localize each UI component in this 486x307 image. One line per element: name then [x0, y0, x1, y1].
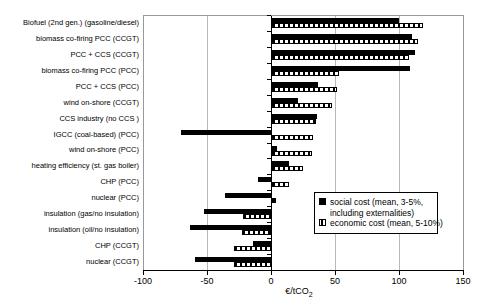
x-axis-line — [143, 270, 464, 271]
plot-border-left — [143, 15, 144, 271]
plot-border-top — [143, 15, 464, 16]
category-label: nuclear (PCC) — [0, 193, 139, 203]
category-axis-tick — [267, 222, 271, 223]
bar-economic-cost — [272, 166, 303, 171]
category-axis-tick — [267, 158, 271, 159]
category-axis-tick — [267, 174, 271, 175]
category-axis-tick — [267, 206, 271, 207]
category-label: biomass co-firing PCC (PCC) — [0, 66, 139, 76]
category-axis-tick — [267, 79, 271, 80]
bar-social-cost — [181, 130, 271, 135]
bar-chart: €/tCO2 -100-50050100150Biofuel (2nd gen.… — [0, 0, 486, 307]
bar-economic-cost — [272, 151, 312, 156]
x-tick-label: 0 — [254, 276, 288, 286]
bar-economic-cost — [272, 103, 332, 108]
category-axis-tick — [267, 127, 271, 128]
x-axis-tick — [271, 271, 272, 275]
category-label: insulation (oil/no insulation) — [0, 225, 139, 235]
category-label: biomass co-firing PCC (CCGT) — [0, 34, 139, 44]
category-axis-tick — [267, 143, 271, 144]
category-axis-tick — [267, 31, 271, 32]
bar-economic-cost — [234, 246, 271, 251]
legend-swatch-social-cost — [319, 198, 326, 205]
bar-economic-cost — [272, 23, 423, 28]
bar-economic-cost — [243, 214, 271, 219]
gridline — [207, 15, 208, 270]
category-label: nuclear (CCGT) — [0, 257, 139, 267]
x-axis-title: €/tCO2 — [254, 286, 344, 300]
bar-economic-cost — [272, 71, 339, 76]
bar-economic-cost — [272, 198, 276, 203]
bar-social-cost — [225, 193, 271, 198]
bar-economic-cost — [272, 55, 409, 60]
bar-economic-cost — [272, 119, 316, 124]
category-label: IGCC (coal-based) (PCC) — [0, 130, 139, 140]
x-tick-label: 100 — [382, 276, 416, 286]
category-axis-tick — [267, 270, 271, 271]
x-tick-label: 150 — [446, 276, 480, 286]
legend-label-social-cost-line2: including externalities) — [330, 208, 414, 219]
plot-border-right — [463, 15, 464, 271]
category-axis-tick — [267, 95, 271, 96]
category-label: CHP (PCC) — [0, 177, 139, 187]
legend-label-social-cost-line1: social cost (mean, 3-5%, — [330, 197, 423, 208]
bar-social-cost — [258, 177, 271, 182]
legend-swatch-economic-cost — [319, 219, 326, 226]
legend-label-economic-cost: economic cost (mean, 5-10%) — [330, 218, 443, 229]
category-axis-tick — [267, 63, 271, 64]
category-axis-tick — [267, 47, 271, 48]
x-axis-tick — [399, 271, 400, 275]
category-label: wind on-shore (CCGT) — [0, 98, 139, 108]
x-tick-label: -50 — [190, 276, 224, 286]
category-label: insulation (gas/no insulation) — [0, 209, 139, 219]
x-tick-label: -100 — [126, 276, 160, 286]
bar-economic-cost — [272, 87, 337, 92]
category-axis-tick — [267, 238, 271, 239]
category-axis-tick — [267, 15, 271, 16]
x-axis-title-subscript: 2 — [309, 291, 313, 298]
x-tick-label: 50 — [318, 276, 352, 286]
bar-economic-cost — [272, 39, 418, 44]
bar-economic-cost — [272, 135, 313, 140]
category-label: CCS industry (no CCS ) — [0, 114, 139, 124]
bar-economic-cost — [272, 182, 289, 187]
legend: social cost (mean, 3-5%, including exter… — [314, 192, 438, 234]
bar-economic-cost — [234, 262, 271, 267]
category-label: heating efficiency (st. gas boiler) — [0, 161, 139, 171]
category-axis-tick — [267, 254, 271, 255]
category-label: PCC + CCS (PCC) — [0, 82, 139, 92]
x-axis-tick — [143, 271, 144, 275]
category-label: CHP (CCGT) — [0, 241, 139, 251]
x-axis-tick — [207, 271, 208, 275]
x-axis-tick — [463, 271, 464, 275]
bar-economic-cost — [242, 230, 271, 235]
x-axis-title-base: €/tCO — [285, 286, 309, 296]
category-axis-tick — [267, 111, 271, 112]
category-label: wind on-shore (PCC) — [0, 145, 139, 155]
category-label: PCC + CCS (CCGT) — [0, 50, 139, 60]
x-axis-tick — [335, 271, 336, 275]
category-axis-tick — [267, 190, 271, 191]
category-label: Biofuel (2nd gen.) (gasoline/diesel) — [0, 18, 139, 28]
